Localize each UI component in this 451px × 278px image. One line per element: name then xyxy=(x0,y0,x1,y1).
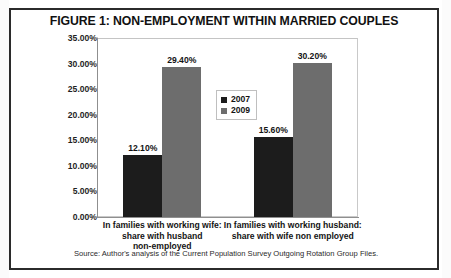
y-axis-tick-label: 20.00% xyxy=(15,110,97,120)
y-axis-tick-label: 35.00% xyxy=(15,33,97,43)
bar-chart: 0.00%5.00%10.00%15.00%20.00%25.00%30.00%… xyxy=(11,30,441,248)
y-axis: 0.00%5.00%10.00%15.00%20.00%25.00%30.00%… xyxy=(11,30,97,248)
y-axis-tick-label: 0.00% xyxy=(15,212,97,222)
bar-2007-group-2[interactable] xyxy=(254,137,293,217)
y-axis-line xyxy=(97,38,98,218)
bar-value-label: 30.20% xyxy=(298,51,327,61)
figure-frame: FIGURE 1: NON-EMPLOYMENT WITHIN MARRIED … xyxy=(9,8,439,270)
bar-2007-group-1[interactable] xyxy=(123,155,162,217)
y-axis-tick-label: 30.00% xyxy=(15,59,97,69)
legend-item-2007[interactable]: 2007 xyxy=(221,94,250,105)
y-axis-tick-label: 15.00% xyxy=(15,135,97,145)
y-axis-tick-label: 10.00% xyxy=(15,161,97,171)
bar-2009-group-2[interactable] xyxy=(293,63,332,217)
legend-swatch-2007-icon xyxy=(221,97,227,103)
bar-value-label: 15.60% xyxy=(259,125,288,135)
y-axis-tick-label: 5.00% xyxy=(15,186,97,196)
x-axis-category-label: In families with working wife:share with… xyxy=(87,220,238,252)
chart-legend: 2007 2009 xyxy=(216,90,257,120)
bar-2009-group-1[interactable] xyxy=(162,67,201,217)
legend-label-2009: 2009 xyxy=(231,105,250,116)
y-axis-tick-label: 25.00% xyxy=(15,84,97,94)
legend-label-2007: 2007 xyxy=(231,94,250,105)
source-note: Source: Author's analysis of the Current… xyxy=(11,249,441,258)
bar-value-label: 29.40% xyxy=(167,55,196,65)
bar-value-label: 12.10% xyxy=(128,143,157,153)
x-axis-category-label: In families with working husband:share w… xyxy=(218,220,369,241)
figure-title: FIGURE 1: NON-EMPLOYMENT WITHIN MARRIED … xyxy=(11,14,437,28)
page-margin-left xyxy=(0,0,9,278)
x-axis-line xyxy=(97,217,359,218)
page-margin-right xyxy=(442,0,451,278)
legend-swatch-2009-icon xyxy=(221,108,227,114)
legend-item-2009[interactable]: 2009 xyxy=(221,105,250,116)
